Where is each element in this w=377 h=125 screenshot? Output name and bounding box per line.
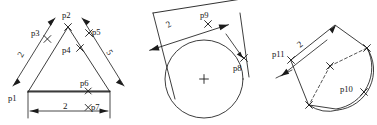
point-marker-sector-top <box>364 45 371 52</box>
label-p9: p9 <box>200 10 209 20</box>
label-p5: p5 <box>92 27 101 37</box>
label-p7: p7 <box>91 102 100 112</box>
label-p8: p8 <box>233 63 242 73</box>
label-p1: p1 <box>8 93 17 103</box>
dim-arrow-fig2-left <box>149 45 160 52</box>
label-p6: p6 <box>80 78 89 88</box>
dim-line-right <box>82 18 124 86</box>
figure-triangle: 2 5 2 <box>8 10 124 118</box>
dim-arrow-bottom-left <box>30 108 39 113</box>
point-marker-p3 <box>44 36 51 43</box>
witness-stroke-fig3 <box>276 70 292 78</box>
dim-arrow-bottom-right <box>100 108 109 113</box>
dim-arrow-right-lower <box>116 79 124 86</box>
dim-arrow-left-upper <box>48 18 55 26</box>
drawing-canvas: 2 5 2 <box>0 0 377 125</box>
dim-value-fig3-edge: 2 <box>295 39 305 50</box>
leader-arrow-p8 <box>237 52 243 58</box>
technical-drawing-svg: 2 5 2 <box>0 0 377 125</box>
dim-line-fig3 <box>281 40 327 76</box>
dim-value-fig2-top: 2 <box>164 19 173 30</box>
label-p11: p11 <box>272 49 285 59</box>
dashed-radius-lower <box>309 66 330 105</box>
dim-line-fig2 <box>148 25 231 51</box>
arc-center-marker <box>327 63 334 70</box>
label-p10: p10 <box>340 84 353 94</box>
circle-center-marker <box>200 75 209 84</box>
figure-arc-sector: 2 p11 p10 <box>272 25 374 111</box>
point-marker-p11 <box>288 57 295 64</box>
point-marker-p9 <box>205 21 212 28</box>
dim-value-fig1-bottom: 2 <box>63 101 68 111</box>
label-p3: p3 <box>31 28 40 38</box>
label-p2: p2 <box>62 10 71 20</box>
point-marker-p2 <box>65 24 72 31</box>
figure-circle-tangents: 2 p9 p8 <box>148 0 249 118</box>
dim-value-fig1-left: 2 <box>15 50 26 59</box>
label-p4: p4 <box>62 45 71 55</box>
point-marker-p10 <box>361 89 368 96</box>
dim-arrow-fig2-right <box>219 23 230 30</box>
dim-arrow-left-lower <box>13 78 21 86</box>
dashed-radius-upper <box>330 48 367 66</box>
tangent-line-top <box>153 0 239 13</box>
dim-arrow-right-upper <box>82 18 90 25</box>
dim-value-fig1-right: 5 <box>104 48 115 58</box>
